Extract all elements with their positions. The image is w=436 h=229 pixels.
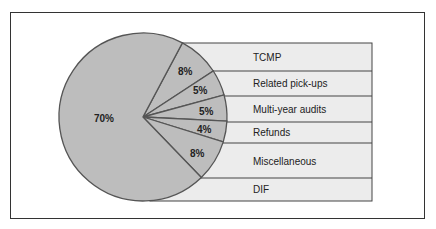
pie-chart: TCMP Related pick-ups Multi-year audits …	[0, 0, 436, 229]
slice-label-dif: 70%	[94, 113, 114, 124]
legend-label-related-pickups: Related pick-ups	[253, 78, 327, 89]
slice-label-multi-year-audits: 5%	[199, 106, 214, 117]
legend-label-dif: DIF	[253, 184, 269, 195]
pie-slices	[59, 33, 227, 201]
legend-label-tcmp: TCMP	[253, 52, 282, 63]
slice-label-related-pickups: 5%	[193, 85, 208, 96]
slice-label-miscellaneous: 8%	[190, 148, 205, 159]
legend-label-refunds: Refunds	[253, 127, 290, 138]
slice-label-refunds: 4%	[197, 124, 212, 135]
legend-label-multi-year-audits: Multi-year audits	[253, 104, 326, 115]
legend-label-miscellaneous: Miscellaneous	[253, 156, 316, 167]
slice-label-tcmp: 8%	[178, 66, 193, 77]
